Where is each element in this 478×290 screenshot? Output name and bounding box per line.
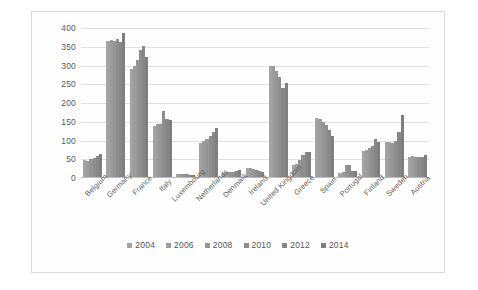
x-axis-label-slot: Austria [406, 180, 429, 228]
bar-group [174, 28, 197, 178]
y-axis-tick-label: 150 [61, 117, 76, 127]
bar-groups [81, 28, 429, 178]
legend-label: 2006 [174, 240, 194, 250]
legend-swatch-icon [166, 243, 171, 248]
bar [169, 120, 172, 179]
legend-item[interactable]: 2006 [166, 240, 194, 250]
bar [145, 57, 148, 179]
y-axis-tick-label: 50 [66, 154, 76, 164]
y-axis-tick-label: 250 [61, 79, 76, 89]
x-axis-label-slot: France [127, 180, 150, 228]
x-axis-label-slot: Portugal [336, 180, 359, 228]
plot-area [81, 28, 429, 178]
legend-label: 2012 [290, 240, 310, 250]
bar-chart-figure: 400350300250200150100500 BelgiumGermanyF… [31, 11, 445, 273]
bar-group [220, 28, 243, 178]
bar-group [127, 28, 150, 178]
legend-label: 2010 [252, 240, 272, 250]
legend-item[interactable]: 2008 [205, 240, 233, 250]
legend-label: 2014 [329, 240, 349, 250]
x-axis-category-label: Spain [318, 175, 338, 195]
bar-group [81, 28, 104, 178]
bar-group [151, 28, 174, 178]
x-axis-category-labels: BelgiumGermanyFranceItalyLuxembourgNethe… [81, 180, 429, 228]
y-axis-tick-labels: 400350300250200150100500 [42, 28, 78, 178]
bar-group [197, 28, 220, 178]
bar-group [313, 28, 336, 178]
y-axis-tick-label: 200 [61, 98, 76, 108]
bar-group [243, 28, 266, 178]
bar-group [336, 28, 359, 178]
x-axis-label-slot: Finland [359, 180, 382, 228]
bar [122, 33, 125, 179]
x-axis-label-slot: Netherlands [197, 180, 220, 228]
x-axis-label-slot: Sweden [383, 180, 406, 228]
bar-group [383, 28, 406, 178]
y-axis-tick-label: 0 [71, 173, 76, 183]
bar-group [359, 28, 382, 178]
bar-group [290, 28, 313, 178]
legend-item[interactable]: 2012 [282, 240, 310, 250]
bar-group [104, 28, 127, 178]
bar [215, 128, 218, 178]
y-axis-tick-label: 300 [61, 61, 76, 71]
x-axis-category-label: Italy [157, 177, 173, 193]
y-axis-tick-label: 400 [61, 23, 76, 33]
x-axis-label-slot: Belgium [81, 180, 104, 228]
chart-legend: 200420062008201020122014 [32, 240, 444, 250]
bar-group [406, 28, 429, 178]
legend-item[interactable]: 2010 [244, 240, 272, 250]
legend-swatch-icon [321, 243, 326, 248]
y-axis-tick-label: 350 [61, 42, 76, 52]
x-axis-label-slot: Spain [313, 180, 336, 228]
x-axis-label-slot: Germany [104, 180, 127, 228]
x-axis-label-slot: Denmark [220, 180, 243, 228]
legend-swatch-icon [127, 243, 132, 248]
x-axis-label-slot: United Kingdom [267, 180, 290, 228]
x-axis-label-slot: Greece [290, 180, 313, 228]
y-axis-tick-label: 100 [61, 136, 76, 146]
bar [331, 136, 334, 178]
bar [285, 83, 288, 178]
bar-group [267, 28, 290, 178]
legend-label: 2004 [135, 240, 155, 250]
legend-item[interactable]: 2004 [127, 240, 155, 250]
legend-swatch-icon [205, 243, 210, 248]
bar [401, 115, 404, 178]
legend-swatch-icon [282, 243, 287, 248]
legend-label: 2008 [213, 240, 233, 250]
x-axis-label-slot: Luxembourg [174, 180, 197, 228]
x-axis-label-slot: Italy [151, 180, 174, 228]
legend-item[interactable]: 2014 [321, 240, 349, 250]
legend-swatch-icon [244, 243, 249, 248]
